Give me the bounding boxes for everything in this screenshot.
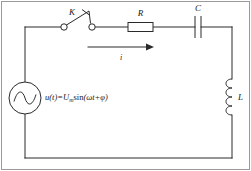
switch-terminal-left (61, 24, 67, 30)
formula-sin: sin (74, 92, 84, 102)
switch-open-icon[interactable] (61, 10, 95, 31)
arrow-right-icon (88, 44, 154, 51)
switch-terminal-right (89, 24, 95, 30)
circuit-schematic-svg: K R C L i (0, 0, 251, 171)
inductor-coil-icon (226, 79, 232, 115)
resistor-icon (128, 23, 153, 32)
inductor-label: L (237, 92, 243, 102)
resistor-label: R (137, 8, 144, 18)
formula-prefix: u(t)=U (45, 92, 69, 102)
current-label: i (120, 53, 122, 62)
switch-contact-stub (89, 11, 91, 24)
formula-subscript: m (69, 97, 73, 103)
switch-label: K (68, 7, 76, 17)
ac-voltage-source-icon (9, 82, 41, 114)
source-formula-label: u(t)=Umsin(ωt+φ) (45, 93, 108, 102)
capacitor-icon (195, 16, 201, 38)
circuit-diagram-canvas: K R C L i u(t)=Umsin(ωt+φ) (0, 0, 251, 171)
capacitor-label: C (195, 3, 202, 13)
formula-suffix: (ωt+φ) (83, 92, 107, 102)
